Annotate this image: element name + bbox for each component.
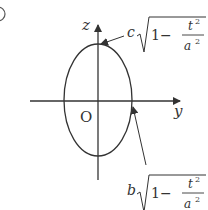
top-coef: c: [127, 24, 135, 40]
side-den-exp: 2: [195, 195, 200, 204]
top-one: 1: [151, 27, 160, 43]
side-den-var: a: [184, 197, 191, 210]
top-den-var: a: [184, 39, 191, 53]
top-den-exp: 2: [195, 37, 200, 46]
top-num-exp: 2: [195, 17, 200, 26]
top-num-var: t: [188, 19, 193, 33]
side-leader-arrow: [133, 107, 146, 165]
problem-number-marker: [0, 7, 5, 21]
top-leader-arrow: [101, 36, 124, 44]
side-minus: −: [160, 185, 172, 201]
side-one: 1: [151, 185, 160, 201]
top-minus: −: [160, 27, 172, 43]
y-axis-label: y: [173, 102, 183, 120]
top-annotation: c 1 − t 2 a 2: [127, 17, 206, 53]
side-num-exp: 2: [195, 175, 200, 184]
z-axis-label: z: [81, 16, 90, 34]
side-num-var: t: [188, 177, 193, 191]
ellipse-cross-section-diagram: z y O c 1 − t 2 a 2 b 1 − t 2 a 2: [0, 0, 208, 210]
side-annotation: b 1 − t 2 a 2: [127, 175, 206, 210]
origin-label: O: [80, 108, 92, 126]
side-coef: b: [127, 182, 136, 198]
